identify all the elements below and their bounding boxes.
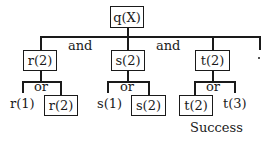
- root-label: q(X): [113, 10, 141, 25]
- success-label: Success: [190, 121, 243, 135]
- branch-s-stem: [127, 36, 129, 50]
- leaf-t2: t(2): [184, 98, 208, 113]
- leaf-r1: r(1): [10, 97, 35, 111]
- or-r-left: [22, 81, 24, 93]
- goal-node-t: t(2): [195, 50, 230, 71]
- root-node-q: q(X): [110, 6, 144, 28]
- goal-t-label: t(2): [201, 53, 225, 68]
- goal-node-s: s(2): [111, 50, 145, 71]
- branch-r-stem: [40, 36, 42, 50]
- goal-node-r: r(2): [23, 50, 57, 71]
- leaf-r2-box: r(2): [44, 95, 78, 116]
- leaf-s2: s(2): [136, 98, 161, 113]
- end-dot: [258, 57, 260, 59]
- or-s-left: [107, 81, 109, 93]
- leaf-r2: r(2): [49, 98, 74, 113]
- or-s-right: [148, 81, 150, 96]
- or-r-right: [60, 81, 62, 96]
- or-label-t: or: [206, 80, 220, 94]
- and-label-2: and: [156, 39, 180, 53]
- branch-t-stem: [212, 36, 214, 50]
- and-label-1: and: [68, 39, 92, 53]
- leaf-t2-box: t(2): [179, 95, 213, 116]
- or-t-left: [194, 81, 196, 96]
- leaf-s1: s(1): [97, 97, 122, 111]
- leaf-t3: t(3): [223, 97, 247, 111]
- or-label-r: or: [34, 80, 48, 94]
- or-label-s: or: [120, 80, 134, 94]
- or-t-right: [234, 81, 236, 93]
- branch-end-stem: [259, 36, 261, 50]
- goal-r-label: r(2): [28, 53, 53, 68]
- leaf-s2-box: s(2): [131, 95, 166, 116]
- goal-s-label: s(2): [115, 53, 140, 68]
